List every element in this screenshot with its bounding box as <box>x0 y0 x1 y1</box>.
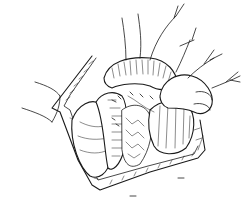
surgical-illustration: Surgical illustration of abdominal incis… <box>0 0 243 209</box>
retractor-arm-left <box>22 82 60 122</box>
illustration-svg <box>0 0 243 209</box>
stray-marks <box>130 178 184 196</box>
